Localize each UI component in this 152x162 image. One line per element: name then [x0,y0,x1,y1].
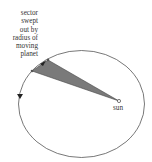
planet-position-end [31,70,34,73]
sector-label-line: moving [0,42,38,50]
orbit-ellipse [19,51,145,158]
sector-label: sector swept out by radius of moving pla… [0,9,38,59]
sector-label-line: planet [0,50,38,58]
orbit-direction-arrow-down-icon [17,94,23,99]
planet-position-start [47,59,50,62]
sector-label-line: swept [0,17,38,25]
sector-label-line: radius of [0,34,38,42]
sector-label-line: sector [0,9,38,17]
sun-label: sun [113,104,123,112]
sector-label-line: out by [0,26,38,34]
sun-icon [117,99,120,102]
swept-sector [32,60,119,101]
